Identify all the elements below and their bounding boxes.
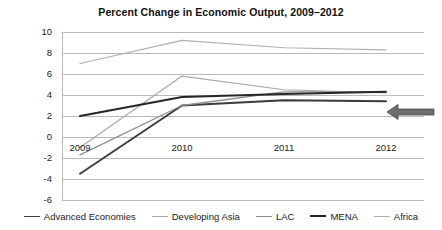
- legend-label: LAC: [276, 211, 294, 222]
- legend-item[interactable]: Africa: [374, 211, 418, 222]
- legend-label: Advanced Economies: [44, 211, 136, 222]
- legend-swatch-icon: [24, 216, 40, 217]
- legend-item[interactable]: Developing Asia: [152, 211, 240, 222]
- y-axis-tick-labels: 1086420-2-4-6: [0, 32, 58, 200]
- gridline: [62, 200, 424, 201]
- annotation-arrow-icon: [387, 103, 435, 121]
- y-tick-label: -6: [44, 195, 52, 205]
- legend-swatch-icon: [310, 215, 326, 217]
- y-tick-label: 2: [47, 111, 52, 121]
- x-tick-label: 2009: [69, 142, 90, 153]
- legend-swatch-icon: [374, 216, 390, 217]
- y-tick-label: 4: [47, 90, 52, 100]
- x-tick-label: 2010: [171, 142, 192, 153]
- x-axis-tick-labels: 2009201020112012: [62, 32, 424, 200]
- legend-item[interactable]: Advanced Economies: [24, 211, 136, 222]
- y-tick-label: -2: [44, 153, 52, 163]
- y-tick-label: 0: [47, 132, 52, 142]
- chart-legend: Advanced EconomiesDeveloping AsiaLACMENA…: [0, 206, 442, 226]
- legend-label: Africa: [394, 211, 418, 222]
- chart-title: Percent Change in Economic Output, 2009–…: [0, 6, 442, 18]
- legend-swatch-icon: [256, 216, 272, 217]
- x-tick-label: 2011: [274, 142, 294, 153]
- legend-item[interactable]: MENA: [310, 211, 357, 222]
- chart-root: Percent Change in Economic Output, 2009–…: [0, 0, 442, 230]
- legend-label: Developing Asia: [172, 211, 240, 222]
- y-tick-label: 10: [41, 27, 52, 37]
- legend-label: MENA: [330, 211, 357, 222]
- x-tick-label: 2012: [375, 142, 396, 153]
- legend-item[interactable]: LAC: [256, 211, 294, 222]
- y-tick-label: 8: [47, 48, 52, 58]
- y-tick-label: -4: [44, 174, 52, 184]
- legend-swatch-icon: [152, 216, 168, 217]
- y-tick-label: 6: [47, 69, 52, 79]
